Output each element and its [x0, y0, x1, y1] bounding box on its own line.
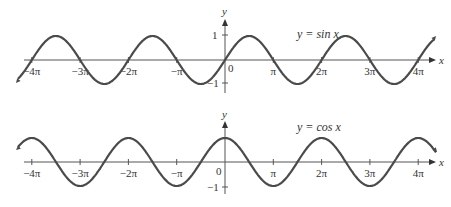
cos-x-arrow-icon — [429, 159, 436, 165]
sin-origin: 0 — [228, 62, 234, 74]
cos-plot: y x −1 0 −4π−3π−2π−ππ2π3π4π y = cos x — [18, 108, 444, 194]
cos-xtick-label: π — [271, 167, 277, 179]
sin-ytick-neg1: −1 — [207, 77, 219, 89]
sin-x-label: x — [438, 54, 444, 66]
sin-x-arrow-icon — [429, 57, 436, 63]
sin-y-label: y — [221, 5, 227, 17]
cos-ytick-neg1: −1 — [207, 181, 219, 193]
cos-origin: 0 — [216, 165, 222, 177]
sin-xtick-label: π — [271, 65, 277, 77]
sin-y-arrow-icon — [222, 19, 228, 26]
cos-xtick-label: 2π — [316, 167, 328, 179]
cos-xtick-label: −2π — [120, 167, 138, 179]
sin-equation: y = sin x — [296, 27, 339, 41]
sin-plot: y x 1 −1 0 −4π−3π−2π−ππ2π3π4π y = sin x — [18, 5, 444, 93]
sin-ytick-1: 1 — [212, 29, 218, 41]
cos-equation: y = cos x — [296, 120, 341, 134]
cos-xtick-label: 3π — [364, 167, 376, 179]
cos-xtick-label: 4π — [413, 167, 425, 179]
cos-xtick-label: −π — [171, 167, 183, 179]
cos-xtick-label: −4π — [23, 167, 41, 179]
cos-y-label: y — [221, 108, 227, 120]
trig-graphs: y x 1 −1 0 −4π−3π−2π−ππ2π3π4π y = sin x … — [0, 0, 451, 207]
cos-xtick-label: −3π — [71, 167, 89, 179]
cos-y-arrow-icon — [222, 121, 228, 128]
cos-x-label: x — [438, 156, 444, 168]
